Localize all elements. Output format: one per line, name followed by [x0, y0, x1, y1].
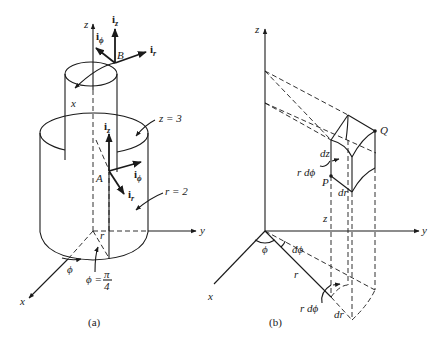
r-dphi-bottom-leader [322, 285, 331, 303]
point-Q [373, 129, 377, 133]
large-cylinder-top-front-right [117, 133, 148, 152]
r2-label: r = 2 [165, 185, 188, 197]
x-axis [214, 231, 265, 284]
point-B-label: B [117, 49, 124, 61]
figure-b: z Q dz r dϕ P dr z y ϕ dϕ r r dϕ dr x (b… [207, 23, 427, 329]
box-back-arc [346, 115, 348, 140]
box-top-back-edge [348, 115, 375, 131]
r-line-base [265, 231, 331, 297]
iz-label-A: iz [104, 120, 111, 135]
r2-pointer [136, 193, 163, 210]
x-axis-label: x [207, 290, 213, 302]
ir-label-B: ir [150, 43, 157, 58]
point-Q-label: Q [380, 124, 388, 136]
dr-bottom-label: dr [334, 308, 345, 320]
ray-mid-1 [265, 103, 331, 140]
y-axis-label: y [199, 224, 205, 236]
z-axis-label: z [254, 23, 260, 35]
dphi-top-arrow [332, 159, 339, 161]
z3-label: z = 3 [158, 112, 182, 124]
phi-value-lhs: ϕ = [86, 273, 102, 285]
large-cylinder-top-back [40, 113, 148, 133]
point-A-label: A [95, 172, 103, 184]
r-label: r [294, 268, 299, 280]
x-axis-hidden [68, 231, 93, 259]
x-axis-label: x [19, 295, 25, 307]
dphi-ray [265, 231, 375, 290]
ir-vector-A [109, 171, 124, 194]
ray-top-1 [265, 71, 348, 115]
z-axis-label: z [83, 18, 89, 30]
box-bottom-right-arc [352, 168, 375, 192]
r-line-upper [96, 140, 109, 170]
ray-top-2 [265, 71, 331, 140]
cylindrical-coordinates-figure: z iz iϕ B ir x z = 3 iz A iϕ ir r = 2 y … [0, 0, 428, 342]
y-axis-label: y [421, 224, 427, 236]
iphi-label-B: iϕ [96, 30, 104, 45]
base-arc-inner [331, 285, 348, 297]
large-cylinder-top-front-left [40, 133, 65, 150]
phi-value-num: π [104, 268, 110, 280]
dphi-arc [281, 241, 285, 247]
ir-label-A: ir [128, 188, 135, 203]
dr-top-label: dr [338, 186, 349, 198]
caption-b: (b) [269, 316, 282, 329]
iz-label-B: iz [112, 13, 119, 28]
phi-label: ϕ [262, 243, 268, 255]
iphi-vector-B [96, 48, 115, 63]
z-height-label: z [322, 212, 328, 224]
box-top-front-arc [331, 140, 352, 157]
caption-a: (a) [88, 316, 101, 329]
phi-value-den: 4 [104, 280, 110, 292]
phi-label: ϕ [67, 263, 73, 275]
r-dphi-top-label: r dϕ [297, 166, 316, 178]
dphi-bottom-arrow [333, 284, 340, 285]
large-cylinder-bottom [40, 232, 148, 260]
x-axis-small [75, 63, 115, 88]
r-label: r [100, 229, 105, 241]
figure-a: z iz iϕ B ir x z = 3 iz A iϕ ir r = 2 y … [19, 13, 205, 329]
iphi-label-A: iϕ [134, 168, 142, 183]
r-dphi-bottom-label: r dϕ [300, 302, 319, 314]
x-label-small: x [70, 97, 76, 109]
point-P-label: P [321, 176, 329, 188]
dphi-label: dϕ [292, 243, 304, 255]
r-dphi-top-leader [320, 161, 330, 166]
dz-label: dz [320, 147, 331, 159]
base-arc-outer [352, 290, 375, 320]
x-axis [29, 259, 68, 298]
